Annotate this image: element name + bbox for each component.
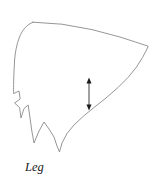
figure-caption: Leg	[24, 160, 44, 174]
leg-diagram-canvas: Leg	[0, 0, 155, 181]
leg-figure: Leg	[0, 0, 155, 181]
